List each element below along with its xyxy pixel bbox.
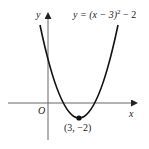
vertex-point	[76, 115, 81, 120]
vertex-label: (3, −2)	[64, 122, 91, 134]
origin-label: O	[38, 105, 45, 116]
y-axis-label: y	[35, 9, 41, 20]
x-axis-label: x	[128, 108, 134, 119]
parabola-graph: y x O (3, −2) y = (x − 3)2 − 2	[0, 0, 149, 149]
equation-label: y = (x − 3)2 − 2	[72, 8, 136, 21]
parabola-curve	[40, 25, 118, 118]
